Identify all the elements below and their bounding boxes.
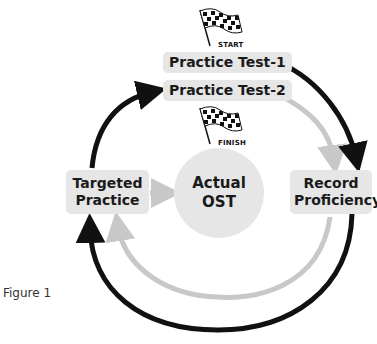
record-proficiency-line2: Proficiency: [294, 192, 368, 209]
node-targeted-practice: Targeted Practice: [66, 170, 149, 214]
targeted-practice-line2: Practice: [70, 192, 145, 209]
node-actual-ost: Actual OST: [174, 148, 264, 238]
start-label: START: [218, 41, 244, 49]
node-practice-test-1: Practice Test-1: [163, 52, 292, 73]
arrow-targeted-to-test2: [92, 92, 152, 168]
node-practice-test-2: Practice Test-2: [163, 80, 292, 101]
figure-caption: Figure 1: [3, 286, 51, 300]
actual-ost-line1: Actual: [192, 174, 246, 193]
node-record-proficiency: Record Proficiency: [290, 170, 372, 214]
actual-ost-line2: OST: [202, 193, 236, 212]
targeted-practice-line1: Targeted: [70, 175, 145, 192]
finish-label: FINISH: [218, 139, 246, 147]
record-proficiency-line1: Record: [294, 175, 368, 192]
arrow-test1-to-proficiency: [278, 62, 356, 158]
arrow-test2-to-proficiency: [277, 94, 334, 160]
